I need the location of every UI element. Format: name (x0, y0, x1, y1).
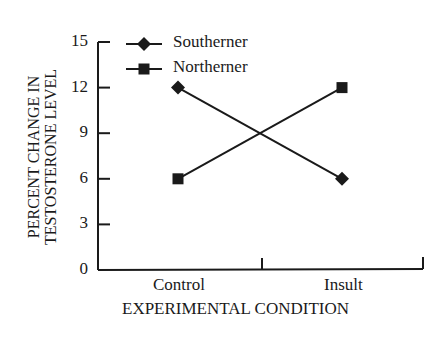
y-axis-title-line-2: TESTOSTERONE LEVEL (42, 62, 59, 252)
legend-square-icon (139, 64, 150, 75)
y-tick-label: 9 (68, 122, 88, 142)
y-axis-title: PERCENT CHANGE IN TESTOSTERONE LEVEL (25, 62, 59, 252)
x-category-label-insult: Insult (324, 275, 363, 295)
y-axis-title-line-1: PERCENT CHANGE IN (25, 62, 42, 252)
x-axis-title: EXPERIMENTAL CONDITION (122, 299, 349, 319)
legend (126, 37, 162, 75)
x-category-label-control: Control (153, 275, 205, 295)
square-marker-icon (337, 82, 348, 93)
x-axis-line (98, 269, 423, 270)
legend-diamond-icon (137, 37, 151, 51)
y-tick-label: 12 (68, 77, 88, 97)
series-lines (171, 81, 349, 186)
y-tick-label: 6 (68, 168, 88, 188)
y-tick-label: 15 (68, 31, 88, 51)
legend-label-southerner: Southerner (173, 32, 248, 52)
legend-label-northerner: Northerner (173, 57, 248, 77)
axes (98, 42, 423, 270)
diamond-marker-icon (171, 81, 185, 95)
square-marker-icon (173, 173, 184, 184)
y-tick-label: 0 (68, 259, 88, 279)
y-tick-label: 3 (68, 213, 88, 233)
diamond-marker-icon (335, 172, 349, 186)
